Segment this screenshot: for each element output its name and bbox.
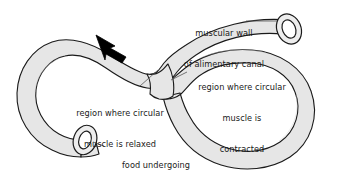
diagram-canvas: muscular wall of alimentary canal region… (0, 0, 349, 173)
label-contracted-line1: region where circular (189, 82, 295, 92)
label-contracted-line2: muscle is (189, 113, 295, 123)
label-muscular-wall-line1: muscular wall (176, 28, 272, 38)
label-food-line1: food undergoing (106, 160, 206, 170)
label-food-undergoing-digestion: food undergoing digestion (106, 140, 206, 173)
tube-end-top-right (272, 10, 306, 48)
label-relaxed-line1: region where circular (60, 108, 180, 118)
